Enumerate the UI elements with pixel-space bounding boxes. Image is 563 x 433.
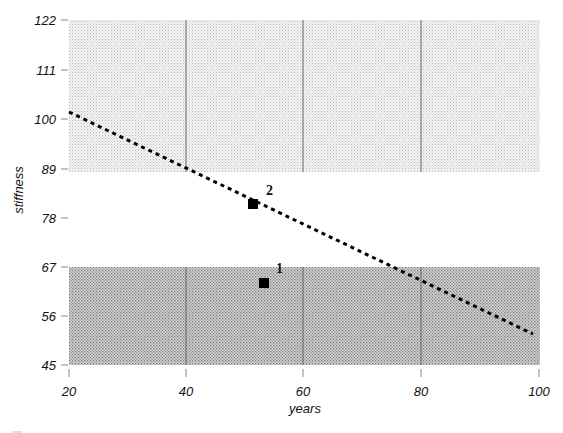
x-tick-80: 80	[414, 384, 429, 399]
lower-band	[69, 267, 540, 365]
chart: 122 111 100 89 78 67 56 45 20 40 60 80 1…	[0, 0, 563, 433]
x-tick-100: 100	[528, 384, 550, 399]
x-tick-40: 40	[179, 384, 194, 399]
y-axis-labels: 122 111 100 89 78 67 56 45	[34, 13, 56, 373]
point-label-1: 1	[276, 261, 283, 276]
y-axis-title: stiffness	[11, 166, 26, 214]
y-tick-89: 89	[42, 162, 56, 177]
y-tick-122: 122	[34, 13, 56, 28]
y-tick-56: 56	[42, 309, 57, 324]
y-tick-100: 100	[34, 112, 56, 127]
point-label-2: 2	[266, 183, 273, 198]
y-tick-45: 45	[42, 358, 57, 373]
y-axis-ticks	[61, 20, 68, 365]
data-point-2	[248, 199, 258, 209]
x-tick-20: 20	[61, 384, 77, 399]
y-tick-67: 67	[42, 260, 57, 275]
x-tick-60: 60	[296, 384, 311, 399]
y-tick-78: 78	[42, 211, 57, 226]
x-axis-labels: 20 40 60 80 100	[61, 384, 551, 399]
x-axis-title: years	[288, 401, 321, 416]
upper-band	[69, 20, 540, 172]
y-tick-111: 111	[36, 63, 56, 78]
data-point-1	[259, 278, 269, 288]
x-axis-ticks	[69, 369, 539, 377]
